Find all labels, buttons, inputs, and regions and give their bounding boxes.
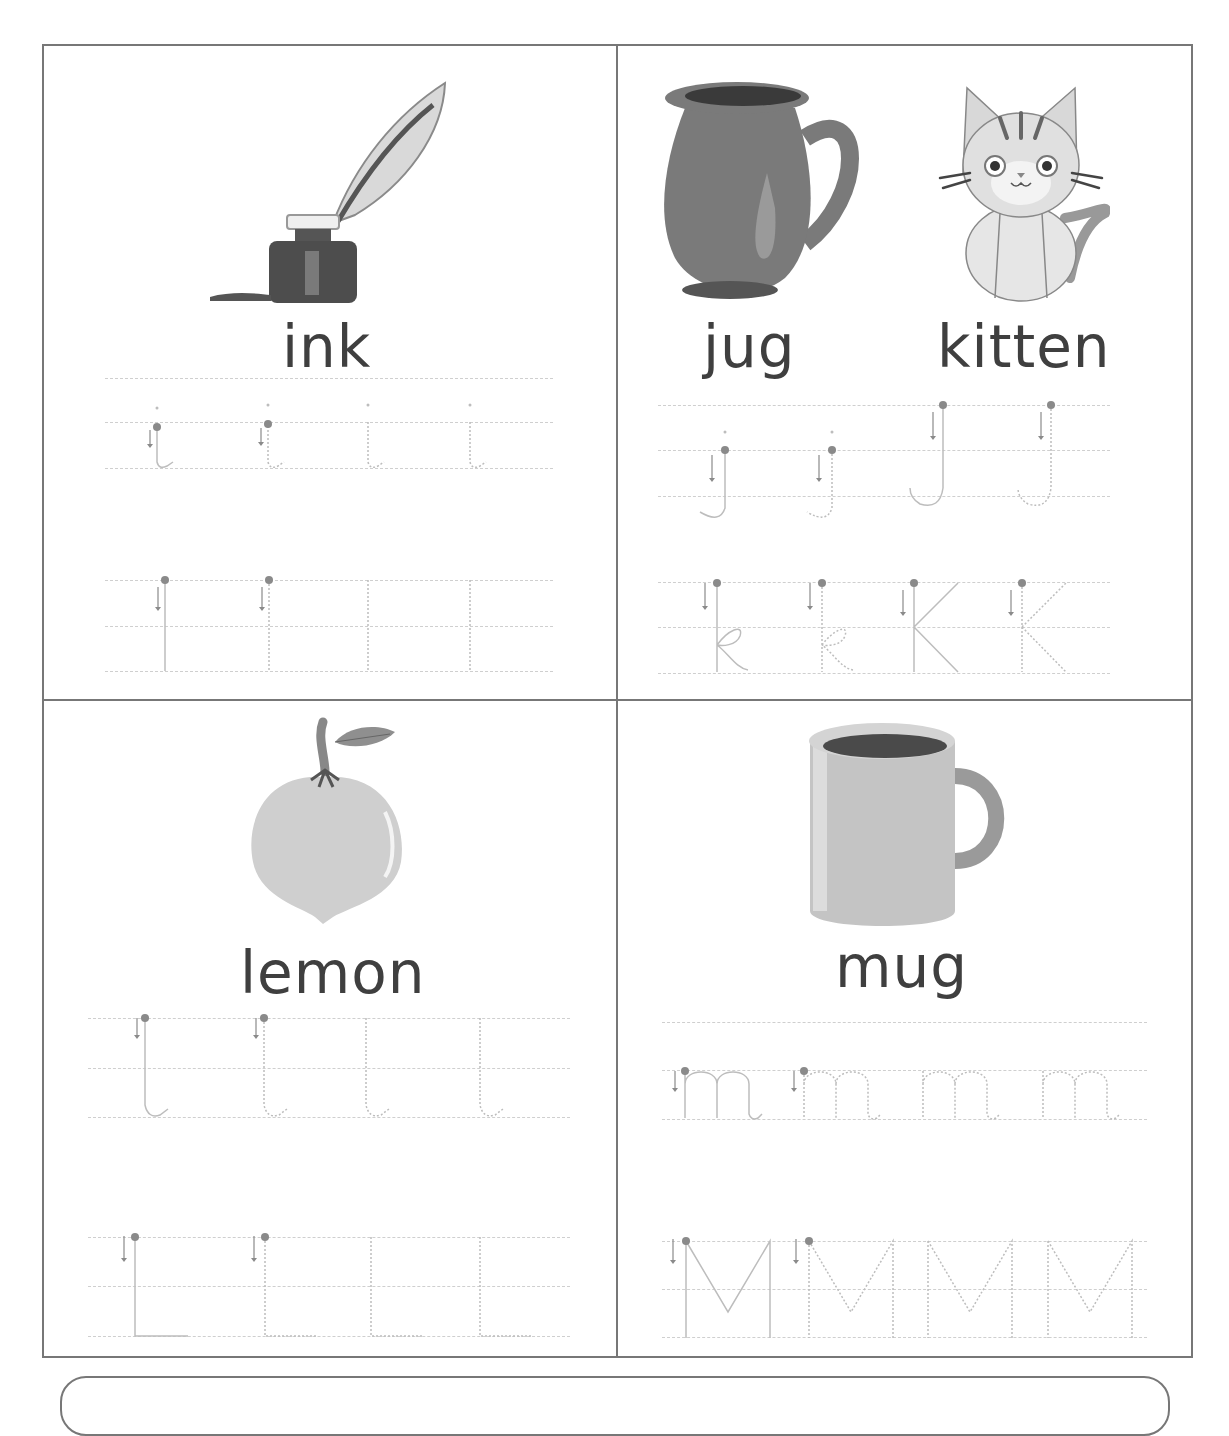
word-lemon: lemon	[240, 944, 426, 1002]
tracing-row-j	[658, 400, 1110, 520]
tracing-row-uppercase-m	[662, 1236, 1147, 1346]
cell-lemon: lemon	[0, 698, 615, 1358]
tracing-row-lowercase-l	[88, 1013, 570, 1123]
jug-icon	[655, 78, 867, 303]
cell-ink: ink	[0, 0, 615, 698]
tracing-row-uppercase-l	[88, 1232, 570, 1342]
mug-icon	[805, 716, 1005, 931]
bottom-rounded-box	[60, 1376, 1170, 1436]
tracing-row-lowercase-m	[662, 1066, 1147, 1126]
cell-mug: mug	[615, 698, 1193, 1358]
word-mug: mug	[835, 938, 968, 996]
word-kitten: kitten	[937, 318, 1111, 376]
tracing-row-k	[658, 578, 1110, 678]
word-jug: jug	[703, 318, 796, 376]
ink-bottle-quill-icon	[205, 75, 455, 305]
tracing-row-uppercase-i	[105, 575, 553, 675]
guide-line	[105, 378, 553, 379]
tracing-row-lowercase-i	[105, 400, 553, 480]
word-ink: ink	[282, 318, 371, 376]
cell-jug-kitten: jug kitten	[615, 0, 1193, 698]
kitten-icon	[935, 83, 1110, 305]
lemon-icon	[245, 712, 405, 932]
guide-line	[662, 1022, 1147, 1023]
